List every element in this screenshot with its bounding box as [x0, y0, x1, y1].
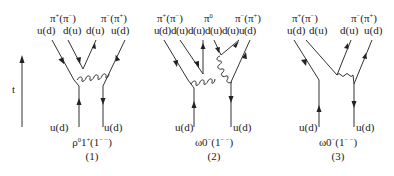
diagram-1-quark-bottom-left: u(d) — [50, 122, 68, 133]
diagram-2-caption: ω0−(1− −) — [174, 136, 254, 148]
diagram-2-number: (2) — [174, 150, 254, 162]
diagram-2-quark-bottom-right: u(d) — [233, 122, 251, 133]
diagram-3-photon-wavy-icon — [337, 74, 354, 85]
diagram-1-quark-bottom-right: u(d) — [104, 122, 122, 133]
diagram-2-quark-top-5: d(u) — [222, 25, 239, 36]
diagram-1-quark-top-2: d(u) — [63, 25, 81, 36]
diagram-2-meson-left: π+(π−) — [157, 10, 183, 24]
diagram-2-gluon-right-icon — [217, 56, 232, 83]
diagram-1-meson-right: π−(π+) — [101, 10, 127, 24]
diagram-2-quark-top-4: d(u) — [205, 25, 222, 36]
diagram-1-quark-top-4: u(d) — [111, 25, 129, 36]
diagram-2-meson-right: π−(π+) — [235, 10, 261, 24]
diagram-3-quark-lines — [294, 40, 372, 127]
diagram-3-quark-top-3: d(u) — [340, 25, 358, 36]
diagram-3-quark-top-1: u(d) — [287, 25, 305, 36]
diagram-2-quark-top-6: u(d) — [239, 25, 256, 36]
diagram-3-meson-left: π+(π−) — [292, 10, 318, 24]
diagram-3-number: (3) — [298, 150, 378, 162]
diagram-3-meson-right: π−(π+) — [351, 10, 377, 24]
diagram-1-number: (1) — [52, 150, 132, 162]
diagram-3-quark-bottom-right: u(d) — [356, 122, 374, 133]
diagram-1-quark-top-3: d(u) — [86, 25, 104, 36]
diagram-2-quark-bottom-left: u(d) — [175, 122, 193, 133]
diagram-2-quark-top-2: d(u) — [171, 25, 188, 36]
diagram-1-gluon-icon — [77, 74, 109, 82]
diagram-1-arrows — [58, 43, 120, 105]
diagram-2-quark-top-1: u(d) — [154, 25, 171, 36]
time-axis-label: t — [12, 84, 15, 95]
diagram-1-meson-left: π+(π−) — [50, 10, 76, 24]
diagram-2-arrows — [173, 41, 247, 108]
diagram-2-quark-top-3: d(u) — [188, 25, 205, 36]
diagram-2-meson-middle: π0 — [204, 10, 213, 24]
diagram-2-gluon-left-icon — [191, 79, 215, 86]
diagram-1-caption: ρ01+(1− −) — [52, 136, 132, 148]
diagram-1-quark-top-1: u(d) — [37, 25, 55, 36]
diagram-3-caption: ω0−(1− −) — [298, 136, 378, 148]
diagram-3-quark-bottom-left: u(d) — [299, 122, 317, 133]
diagram-3-quark-top-4: u(d) — [364, 25, 382, 36]
diagram-1-quark-lines — [52, 40, 125, 127]
time-axis-arrow — [20, 55, 25, 127]
diagram-3-quark-top-2: d(u) — [309, 25, 327, 36]
